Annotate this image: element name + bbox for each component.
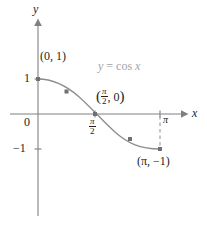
cosine-plot-canvas: [0, 0, 207, 231]
curve-label-equals: =: [106, 59, 113, 73]
x-tick-label-pi: π: [163, 115, 168, 125]
x-axis-arrowhead: [181, 110, 189, 118]
cosine-curve-figure: y x 0 1 −1 π 2 π (0, 1) (π2, 0) (π, −1) …: [0, 0, 207, 231]
annotation-zero-suffix: , 0: [108, 90, 120, 104]
y-axis-label: y: [33, 3, 38, 15]
annotation-point-end: (π, −1): [137, 155, 170, 167]
marker-point-pi-negative-1: [158, 147, 162, 151]
origin-label: 0: [24, 116, 30, 128]
pi-over-2-denominator: 2: [89, 126, 96, 136]
y-tick-label-one: 1: [24, 72, 30, 84]
marker-point-quarter: [65, 90, 69, 94]
curve-label-function: cos: [116, 59, 132, 73]
x-tick-label-pi-over-2: π 2: [89, 118, 96, 138]
curve-equation-label: y = cos x: [98, 60, 140, 72]
close-paren: ): [120, 88, 125, 104]
x-axis-label: x: [192, 107, 197, 119]
annotation-pi-over-2-numerator: π: [101, 87, 108, 96]
annotation-pi-over-2-denominator: 2: [101, 96, 108, 106]
marker-point-0-1: [36, 77, 40, 81]
annotation-point-start: (0, 1): [40, 50, 66, 62]
y-tick-label-negative-one: −1: [13, 142, 26, 154]
y-axis-arrowhead: [34, 19, 42, 27]
curve-label-lhs: y: [98, 59, 103, 73]
annotation-pi-over-2-fraction: π2: [101, 87, 108, 107]
curve-label-variable: x: [135, 59, 140, 73]
marker-point-three-quarter: [128, 137, 132, 141]
pi-over-2-fraction: π 2: [89, 117, 96, 137]
pi-over-2-numerator: π: [89, 117, 96, 126]
annotation-point-x-intercept: (π2, 0): [96, 88, 125, 108]
